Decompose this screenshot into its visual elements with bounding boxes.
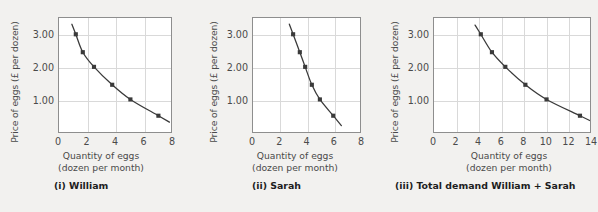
chart-panel-sarah: Price of eggs (£ per dozen)1.002.003.000… [196, 0, 388, 212]
x-axis-title: Quantity of eggs(dozen per month) [16, 150, 186, 173]
x-axis-tick-label: 2 [276, 136, 282, 147]
x-axis-title-line1: Quantity of eggs [424, 150, 594, 162]
y-axis-tick-label: 2.00 [227, 61, 248, 72]
x-axis-tick-label: 0 [55, 136, 61, 147]
x-axis-tick-label: 12 [562, 136, 574, 147]
plot-frame [58, 17, 172, 133]
data-point-marker [156, 114, 160, 118]
plot-area: 1.002.003.0002468 [58, 17, 172, 133]
x-axis-title-line2: (dozen per month) [210, 162, 380, 174]
x-axis-tick-label: 8 [358, 136, 364, 147]
x-axis-tick-label: 6 [140, 136, 146, 147]
data-point-marker [303, 65, 307, 69]
y-axis-title: Price of eggs (£ per dozen) [389, 7, 403, 157]
data-point-marker [318, 97, 322, 101]
demand-curve-svg [253, 18, 360, 132]
panel-caption: (i) William [54, 180, 108, 191]
y-axis-title: Price of eggs (£ per dozen) [9, 7, 23, 157]
x-axis-tick-label: 4 [475, 136, 481, 147]
data-point-marker [523, 83, 527, 87]
data-point-marker [110, 83, 114, 87]
x-axis-tick-label: 6 [498, 136, 504, 147]
x-axis-tick-label: 4 [112, 136, 118, 147]
plot-frame [433, 17, 591, 133]
x-axis-tick-label: 0 [249, 136, 255, 147]
demand-curve-line [475, 25, 590, 121]
demand-curve-line [72, 24, 170, 122]
y-axis-tick-label: 1.00 [33, 94, 54, 105]
data-point-marker [128, 97, 132, 101]
x-axis-tick-label: 2 [83, 136, 89, 147]
y-axis-tick-label: 2.00 [408, 61, 429, 72]
x-axis-title: Quantity of eggs(dozen per month) [424, 150, 594, 173]
data-point-marker [298, 50, 302, 54]
data-point-marker [479, 32, 483, 36]
data-point-marker [544, 97, 548, 101]
y-axis-tick-label: 2.00 [33, 61, 54, 72]
y-axis-tick-label: 3.00 [408, 28, 429, 39]
y-axis-tick-label: 1.00 [227, 94, 248, 105]
x-axis-title-line2: (dozen per month) [16, 162, 186, 174]
demand-curve-line [289, 24, 341, 125]
x-axis-tick-label: 10 [540, 136, 552, 147]
data-point-marker [331, 114, 335, 118]
figure-demand-curves: Price of eggs (£ per dozen)1.002.003.000… [0, 0, 598, 212]
plot-area: 1.002.003.0002468101214 [433, 17, 591, 133]
plot-area: 1.002.003.0002468 [252, 17, 361, 133]
data-point-marker [81, 50, 85, 54]
data-point-marker [490, 50, 494, 54]
chart-panel-total-demand: Price of eggs (£ per dozen)1.002.003.000… [384, 0, 598, 212]
x-axis-title-line1: Quantity of eggs [16, 150, 186, 162]
panel-caption: (ii) Sarah [252, 180, 301, 191]
panel-caption: (iii) Total demand William + Sarah [395, 180, 576, 191]
demand-curve-svg [59, 18, 171, 132]
y-axis-tick-label: 1.00 [408, 94, 429, 105]
data-point-marker [310, 83, 314, 87]
x-axis-tick-label: 0 [430, 136, 436, 147]
data-point-marker [74, 32, 78, 36]
x-axis-tick-label: 6 [331, 136, 337, 147]
demand-curve-svg [434, 18, 590, 132]
x-axis-tick-label: 4 [303, 136, 309, 147]
chart-panel-william: Price of eggs (£ per dozen)1.002.003.000… [0, 0, 200, 212]
data-point-marker [92, 65, 96, 69]
x-axis-tick-label: 8 [520, 136, 526, 147]
y-axis-tick-label: 3.00 [33, 28, 54, 39]
x-axis-title-line2: (dozen per month) [424, 162, 594, 174]
y-axis-title: Price of eggs (£ per dozen) [208, 7, 222, 157]
x-axis-tick-label: 14 [585, 136, 597, 147]
plot-frame [252, 17, 361, 133]
y-axis-tick-label: 3.00 [227, 28, 248, 39]
x-axis-title-line1: Quantity of eggs [210, 150, 380, 162]
data-point-marker [503, 65, 507, 69]
data-point-marker [578, 114, 582, 118]
x-axis-tick-label: 2 [453, 136, 459, 147]
x-axis-tick-label: 8 [169, 136, 175, 147]
data-point-marker [291, 32, 295, 36]
x-axis-title: Quantity of eggs(dozen per month) [210, 150, 380, 173]
